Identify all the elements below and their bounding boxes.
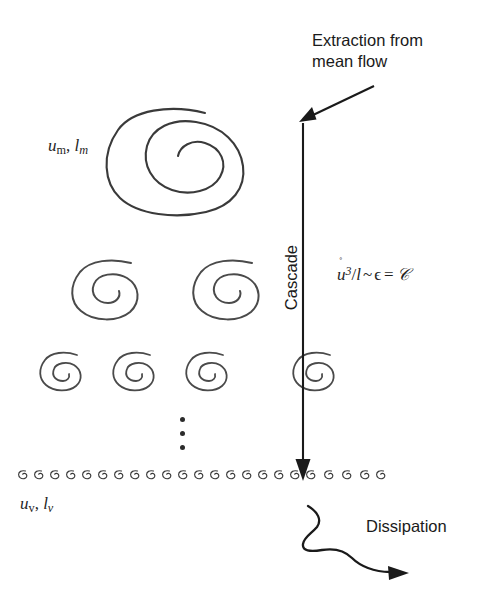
- dissipation-wavy-arrow: [0, 0, 480, 599]
- dissipation-annotation: Dissipation: [366, 516, 447, 537]
- turbulence-energy-cascade-figure: um, lm: [0, 0, 480, 599]
